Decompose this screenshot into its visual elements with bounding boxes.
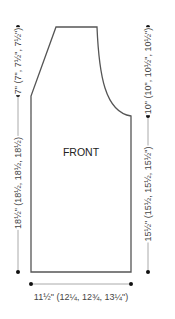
lower-right-length-label: 15½" (15½, 15½, 15½") xyxy=(143,146,153,243)
width-label: 11½" (12¼, 12¾, 13¼") xyxy=(34,292,128,302)
armhole-depth-label: 10" (10", 10½", 10½") xyxy=(143,27,153,115)
shoulder-depth-label: 7" (7", 7½", 7½") xyxy=(13,27,23,95)
left-bottom-dot xyxy=(16,270,20,274)
bottom-right-dot xyxy=(129,282,133,286)
bottom-left-dot xyxy=(29,282,33,286)
side-length-label: 18½" (18½, 18½, 18½) xyxy=(13,136,23,230)
right-bottom-dot xyxy=(146,270,150,274)
piece-title: FRONT xyxy=(63,146,99,158)
